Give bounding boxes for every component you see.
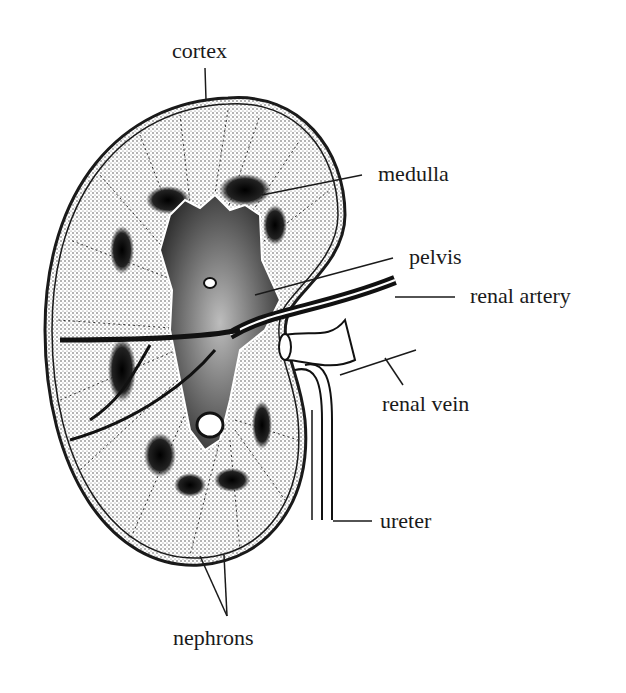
label-renal-vein: renal vein <box>382 393 469 415</box>
label-renal-artery: renal artery <box>470 285 571 307</box>
kidney-illustration <box>0 0 626 693</box>
label-medulla: medulla <box>378 163 449 185</box>
kidney-diagram: cortex medulla pelvis renal artery renal… <box>0 0 626 693</box>
label-pelvis: pelvis <box>409 246 462 268</box>
label-cortex: cortex <box>172 40 227 62</box>
label-nephrons: nephrons <box>173 627 254 649</box>
renal-vein <box>279 320 355 365</box>
label-ureter: ureter <box>380 510 431 532</box>
